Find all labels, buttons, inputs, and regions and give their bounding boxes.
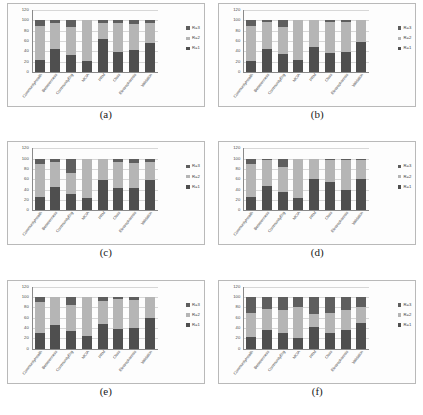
stacked-bar: [66, 148, 76, 210]
bar-segment-r2: [129, 300, 139, 328]
stacked-bar: [246, 287, 256, 349]
chart-frame: 120100806040200CommunityHealthBetweennes…: [218, 280, 416, 384]
bar-segment-r2: [325, 160, 335, 182]
chart-panel: 120100806040200CommunityHealthBetweennes…: [0, 138, 212, 276]
x-axis-tick-label: CommunityEng: [55, 73, 74, 95]
bar-segment-r1: [309, 179, 319, 210]
bar-segment-r2: [145, 162, 155, 180]
stacked-bar: [145, 287, 155, 349]
chart-panel: 120100806040200CommunityHealthBetweennes…: [0, 277, 212, 415]
bar-segment-r1: [262, 186, 272, 210]
bar-segment-r1: [35, 60, 45, 72]
y-axis-tick-label: 60: [236, 316, 241, 320]
x-axis-labels: CommunityHealthBetweennessCommunityEngMC…: [32, 73, 158, 107]
legend-swatch-r1: [186, 323, 190, 327]
stacked-bar: [113, 148, 123, 210]
bar-segment-r3: [246, 297, 256, 313]
bar-segment-r2: [113, 299, 123, 329]
y-axis-line: [243, 287, 244, 349]
stacked-bar: [356, 10, 366, 72]
y-axis-tick-label: 60: [24, 316, 29, 320]
stacked-bar: [35, 148, 45, 210]
x-axis-tick-label: Electrophoresis: [119, 350, 138, 372]
bar-segment-r2: [82, 20, 92, 61]
x-axis-tick-label: Electrophoresis: [330, 73, 349, 95]
stacked-bar: [246, 10, 256, 72]
bar-group: [243, 10, 369, 72]
bar-segment-r1: [293, 60, 303, 72]
x-axis-tick-label: Closs: [113, 73, 122, 83]
bar-segment-r3: [309, 297, 319, 314]
panel-caption: (d): [311, 246, 324, 258]
bar-segment-r2: [341, 310, 351, 330]
bar-segment-r1: [129, 50, 139, 72]
legend: R=3R=2R=1: [186, 303, 199, 328]
bar-segment-r1: [262, 330, 272, 349]
bar-segment-r1: [293, 198, 303, 210]
y-axis-tick-label: 0: [26, 347, 28, 351]
legend-label: R=3: [403, 26, 411, 30]
y-axis-tick-label: 120: [233, 285, 240, 289]
y-axis-tick-label: 120: [233, 8, 240, 12]
legend-label: R=3: [403, 164, 411, 168]
bar-segment-r1: [278, 192, 288, 210]
legend-item: R=3: [186, 26, 199, 30]
x-axis-tick-label: Closs: [324, 350, 333, 360]
legend-item: R=2: [398, 175, 411, 179]
bar-segment-r2: [356, 307, 366, 323]
bar-segment-r3: [293, 297, 303, 307]
legend-swatch-r2: [186, 313, 190, 317]
x-axis-labels: CommunityHealthBetweennessCommunityEngMC…: [243, 350, 369, 384]
stacked-bar: [278, 148, 288, 210]
bar-segment-r2: [262, 309, 272, 330]
stacked-bar: [129, 10, 139, 72]
legend-label: R=1: [403, 46, 411, 50]
stacked-bar: [145, 10, 155, 72]
bar-segment-r3: [278, 159, 288, 168]
y-axis-tick-label: 120: [22, 146, 29, 150]
legend: R=3R=2R=1: [398, 164, 411, 189]
y-axis-tick-label: 100: [22, 157, 29, 161]
y-axis-tick-label: 40: [236, 326, 241, 330]
stacked-bar: [309, 10, 319, 72]
x-axis-tick-label: MCIA: [81, 73, 90, 83]
y-axis-tick-label: 20: [24, 336, 29, 340]
x-axis-tick-label: MCIA: [81, 350, 90, 360]
bar-segment-r1: [98, 180, 108, 210]
x-axis-tick-label: Electrophoresis: [330, 211, 349, 233]
bar-segment-r2: [262, 160, 272, 186]
bar-segment-r1: [278, 333, 288, 349]
x-axis-tick-label: Electrophoresis: [119, 211, 138, 233]
stacked-bar: [262, 148, 272, 210]
x-axis-tick-label: CommunityEng: [55, 211, 74, 233]
bar-segment-r2: [35, 302, 45, 333]
plot-area: 120100806040200: [243, 148, 369, 210]
y-axis-tick-label: 80: [236, 167, 241, 171]
legend-label: R=1: [192, 46, 200, 50]
bar-segment-r1: [50, 325, 60, 348]
bar-segment-r1: [246, 61, 256, 72]
panel-caption: (b): [311, 108, 324, 120]
x-axis-tick-label: PRM: [309, 350, 317, 359]
bar-segment-r2: [50, 297, 60, 325]
bar-segment-r1: [129, 188, 139, 211]
bar-segment-r1: [325, 53, 335, 72]
x-axis-tick-label: Validation: [352, 350, 365, 365]
bar-segment-r1: [325, 333, 335, 349]
legend-label: R=2: [192, 36, 200, 40]
bar-segment-r1: [50, 187, 60, 210]
stacked-bar: [325, 148, 335, 210]
x-axis-tick-label: CommunityHealth: [233, 73, 254, 99]
bar-segment-r1: [66, 55, 76, 72]
legend-item: R=2: [398, 313, 411, 317]
legend-item: R=1: [186, 46, 199, 50]
x-axis-tick-label: Validation: [352, 211, 365, 226]
bar-segment-r1: [341, 190, 351, 210]
bar-segment-r2: [35, 164, 45, 198]
chart-panel: 120100806040200CommunityHealthBetweennes…: [212, 138, 423, 276]
bar-segment-r1: [98, 324, 108, 349]
legend-label: R=2: [192, 175, 200, 179]
chart-panel: 120100806040200CommunityHealthBetweennes…: [212, 277, 423, 415]
y-axis-tick-label: 60: [24, 177, 29, 181]
bar-segment-r1: [66, 194, 76, 210]
